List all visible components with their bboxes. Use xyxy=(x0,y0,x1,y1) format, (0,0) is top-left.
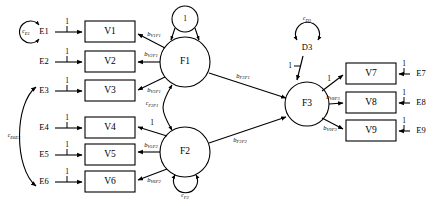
structural-path-f1-f3-label: bF3F1 xyxy=(236,72,250,80)
observed-variable-v5: V5 xyxy=(85,144,135,165)
loading-f2-v5: bV5F2 xyxy=(138,141,160,152)
error-path-e5-v5-label: 1 xyxy=(65,140,69,149)
structural-path-d3-f3-label: 1 xyxy=(288,61,292,70)
observed-variable-v3-label: V3 xyxy=(104,85,116,95)
disturbance-d3-label: D3 xyxy=(302,42,312,52)
error-term-e7: E7 xyxy=(416,68,425,78)
observed-variable-v3: V3 xyxy=(85,80,135,101)
structural-path-f2-f3: bF3F2 xyxy=(209,117,286,144)
observed-variable-v7-label: V7 xyxy=(365,68,377,78)
loading-f1-v1: bV1F1 xyxy=(138,30,165,48)
error-path-e7-v7: 1 xyxy=(399,59,410,74)
structural-path-f1-f3: bF3F1 xyxy=(209,72,286,98)
structural-path-f2-f3-label: bF3F2 xyxy=(233,136,247,144)
error-path-e1-v1-label: 1 xyxy=(65,17,69,26)
error-path-e4-v4: 1 xyxy=(55,113,82,128)
error-term-e3: E3 xyxy=(39,85,48,95)
sem-path-diagram: V1 V2 V3 V4 V5 V6 V7 V8 xyxy=(0,0,433,212)
error-path-e9-v9-label: 1 xyxy=(402,116,406,125)
unit-variance-circle-f1: 1 xyxy=(171,6,199,40)
structural-path-d3-f3: 1 xyxy=(288,56,303,80)
observed-variable-v6: V6 xyxy=(85,171,135,192)
loading-f1-v3: bV3F1 xyxy=(138,77,165,94)
observed-variable-v1: V1 xyxy=(85,21,135,42)
error-path-e1-v1: 1 xyxy=(55,17,82,32)
covariance-f2f1-label: cF2F1 xyxy=(146,100,159,107)
observed-variable-v7: V7 xyxy=(346,63,396,84)
loading-f3-v9: bV9F3 xyxy=(322,118,343,132)
observed-variable-v8-label: V8 xyxy=(365,97,377,107)
loading-f3-v7-label: 1 xyxy=(327,74,331,83)
observed-variable-v2: V2 xyxy=(85,51,135,72)
error-term-e5: E5 xyxy=(39,149,48,159)
observed-variable-v4-label: V4 xyxy=(104,122,116,132)
unit-variance-circle-f1-label: 1 xyxy=(183,14,187,23)
error-path-e6-v6: 1 xyxy=(55,167,82,182)
covariance-e6e3: cE6E3 xyxy=(8,87,36,186)
loading-f2-v4-label: 1 xyxy=(150,118,154,127)
error-term-e8: E8 xyxy=(416,97,425,107)
observed-variable-v6-label: V6 xyxy=(104,176,116,186)
error-term-e2: E2 xyxy=(39,56,48,66)
latent-factor-f3: F3 xyxy=(285,82,329,126)
error-path-e6-v6-label: 1 xyxy=(65,167,69,176)
variance-loop-d3-label: cD3 xyxy=(303,15,312,22)
loading-f1-v1-label: bV1F1 xyxy=(147,30,161,38)
error-path-e3-v3-label: 1 xyxy=(65,76,69,85)
variance-loop-f2: cF2 xyxy=(174,175,198,200)
error-path-e7-v7-label: 1 xyxy=(402,59,406,68)
error-path-e9-v9: 1 xyxy=(399,116,410,131)
error-path-e3-v3: 1 xyxy=(55,76,82,91)
error-path-e4-v4-label: 1 xyxy=(65,113,69,122)
error-path-e8-v8-label: 1 xyxy=(402,88,406,97)
error-term-e4: E4 xyxy=(39,122,49,132)
loading-f1-v2: bV2F1 xyxy=(138,50,160,62)
loading-f2-v5-label: bV5F2 xyxy=(144,141,158,149)
observed-variable-v9: V9 xyxy=(346,120,396,141)
loading-f2-v6: bV6F2 xyxy=(138,169,167,184)
latent-factor-f1: F1 xyxy=(160,37,210,87)
error-path-e8-v8: 1 xyxy=(399,88,410,103)
loading-f1-v2-label: bV2F1 xyxy=(144,50,158,58)
latent-factor-f2: F2 xyxy=(160,127,210,177)
observed-variable-v9-label: V9 xyxy=(365,125,377,135)
error-path-e5-v5: 1 xyxy=(55,140,82,155)
loading-f3-v7: 1 xyxy=(322,74,343,91)
error-path-e2-v2: 1 xyxy=(55,47,82,62)
latent-factor-f1-label: F1 xyxy=(180,56,190,66)
observed-variable-v2-label: V2 xyxy=(104,56,116,66)
loading-f2-v6-label: bV6F2 xyxy=(147,176,161,184)
variance-loop-e1-label: cE1 xyxy=(22,28,30,35)
error-term-e9: E9 xyxy=(416,125,425,135)
diagram-canvas: V1 V2 V3 V4 V5 V6 V7 V8 xyxy=(0,0,433,212)
observed-variable-v5-label: V5 xyxy=(104,149,116,159)
observed-variable-v1-label: V1 xyxy=(104,26,116,36)
error-term-e6: E6 xyxy=(39,176,48,186)
observed-variable-v8: V8 xyxy=(346,92,396,113)
loading-f1-v3-label: bV3F1 xyxy=(147,86,161,94)
variance-loop-d3: cD3 xyxy=(296,15,320,40)
variance-loop-e1: cE1 xyxy=(20,21,39,43)
error-path-e2-v2-label: 1 xyxy=(65,47,69,56)
variance-loop-f2-label: cF2 xyxy=(181,192,189,199)
observed-variable-v4: V4 xyxy=(85,117,135,138)
latent-factor-f2-label: F2 xyxy=(180,146,190,156)
latent-factor-f3-label: F3 xyxy=(302,98,312,108)
error-term-e1: E1 xyxy=(39,26,48,36)
loading-f2-v4: 1 xyxy=(138,118,167,136)
